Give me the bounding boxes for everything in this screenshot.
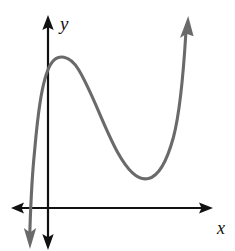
graph-figure: y x bbox=[0, 0, 235, 251]
x-axis-label: x bbox=[216, 218, 225, 238]
figure-background bbox=[0, 0, 235, 251]
coordinate-plane-svg: y x bbox=[0, 0, 235, 251]
y-axis-label: y bbox=[58, 13, 69, 34]
